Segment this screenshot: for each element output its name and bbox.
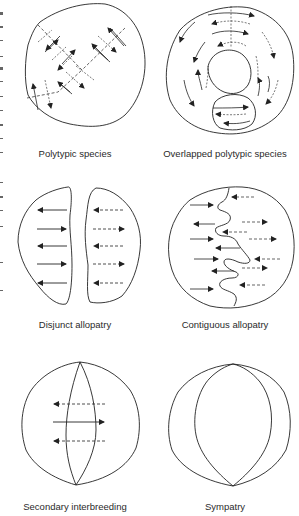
disjunct-allopatry-diagram — [0, 170, 150, 340]
panel-disjunct-allopatry: Disjunct allopatry — [0, 170, 150, 340]
caption-disjunct-allopatry: Disjunct allopatry — [0, 319, 150, 330]
sympatry-diagram — [150, 340, 299, 516]
caption-overlapped-polytypic-species: Overlapped polytypic species — [150, 148, 299, 159]
contiguous-allopatry-diagram — [150, 170, 299, 340]
caption-contiguous-allopatry: Contiguous allopatry — [150, 319, 299, 330]
panel-secondary-interbreeding: Secondary interbreeding — [0, 340, 150, 516]
panel-sympatry: Sympatry — [150, 340, 299, 516]
polytypic-species-diagram — [0, 0, 150, 170]
caption-sympatry: Sympatry — [150, 501, 299, 512]
overlapped-polytypic-species-diagram — [150, 0, 299, 170]
panel-contiguous-allopatry: Contiguous allopatry — [150, 170, 299, 340]
caption-polytypic-species: Polytypic species — [0, 148, 150, 159]
secondary-interbreeding-diagram — [0, 340, 150, 516]
panel-polytypic-species: Polytypic species — [0, 0, 150, 170]
panel-overlapped-polytypic-species: Overlapped polytypic species — [150, 0, 299, 170]
caption-secondary-interbreeding: Secondary interbreeding — [0, 501, 150, 512]
